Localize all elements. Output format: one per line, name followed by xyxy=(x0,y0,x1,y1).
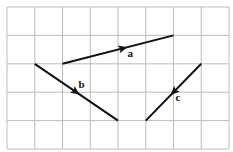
vector-label: c xyxy=(176,91,181,103)
vector-label: b xyxy=(78,78,84,90)
vector-grid-diagram: abc xyxy=(0,0,233,152)
vector-label: a xyxy=(128,47,134,59)
grid xyxy=(7,7,229,149)
